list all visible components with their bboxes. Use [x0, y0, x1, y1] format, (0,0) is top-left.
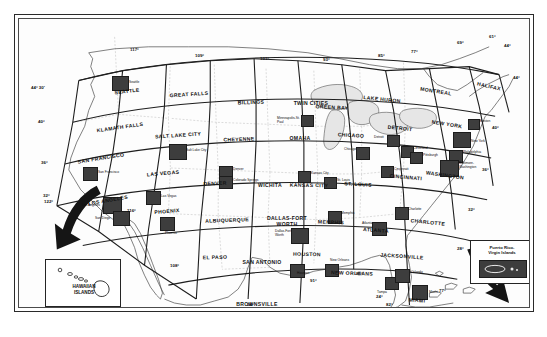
- graticule-tick-bottom-1: 108°: [170, 263, 179, 268]
- hawaii-title-line2: ISLANDS: [74, 290, 94, 295]
- tac-label-denver: Denver: [233, 168, 244, 172]
- graticule-tick-bottom-6: 85°: [356, 271, 363, 276]
- graticule-tick-latitudes-right-0: 44°: [504, 43, 511, 48]
- tac-box-chicago: [356, 147, 370, 160]
- tac-label-salt-lake-city: Salt Lake City: [186, 149, 206, 153]
- tac-label-memphis: Memphis: [341, 212, 354, 216]
- pr-title-line2: Virgin Islands: [488, 250, 515, 255]
- graticule-tick-latitudes-left-1: 40°: [38, 119, 45, 124]
- graticule-tick-latitudes-left-3: 32°: [43, 193, 50, 198]
- graticule-tick-latitudes-right-6: 77°: [439, 288, 446, 293]
- graticule-tick-bottom-7: 24°: [376, 294, 383, 299]
- tac-label-new-orleans: New Orleans: [330, 259, 349, 263]
- tac-label-phoenix: Phoenix: [165, 232, 177, 236]
- puerto-rico-inset-title: Puerto Rico- Virgin Islands: [475, 245, 529, 255]
- chart-inner-border: SeattleMinneapolis-St. PaulSalt Lake Cit…: [18, 18, 530, 308]
- tac-label-dallas-fort-worth: Dallas-Fort Worth: [275, 230, 299, 238]
- graticule-tick-longitudes-top-6: 69°: [457, 40, 464, 45]
- tac-label-las-vegas: Las Vegas: [161, 195, 176, 199]
- graticule-tick-longitudes-top-3: 93°: [323, 57, 330, 62]
- sectional-chart-brownsville: BROWNSVILLE: [217, 301, 297, 307]
- tac-box-salt-lake-city: [169, 144, 187, 160]
- tac-label-seattle: Seattle: [129, 81, 139, 85]
- puerto-rico-inset: Puerto Rico- Virgin Islands: [470, 240, 530, 284]
- screenshot-root: SeattleMinneapolis-St. PaulSalt Lake Cit…: [0, 0, 547, 337]
- graticule-tick-longitudes-top-0: 117°: [130, 47, 139, 52]
- graticule-tick-latitudes-right-1: 44°: [513, 75, 520, 80]
- hawaii-arrow: [55, 186, 101, 250]
- hawaii-inset-title: HAWAIIAN ISLANDS: [62, 284, 106, 295]
- chart-frame: SeattleMinneapolis-St. PaulSalt Lake Cit…: [14, 14, 534, 312]
- graticule-tick-longitudes-top-2: 101°: [260, 56, 269, 61]
- graticule-tick-bottom-2: 103°: [201, 307, 210, 308]
- tac-label-cleveland: Cleveland: [413, 147, 428, 151]
- graticule-tick-bottom-0: 116°: [127, 208, 136, 213]
- tac-box-minneapolis-st-paul: [301, 115, 314, 127]
- puerto-rico-tac-box: [479, 260, 527, 278]
- tac-box-new-york: [453, 132, 471, 148]
- graticule-tick-latitudes-left-0: 44° 30': [31, 85, 45, 90]
- graticule-tick-longitudes-top-4: 85°: [378, 53, 385, 58]
- graticule-tick-latitudes-left-4: 122°: [44, 199, 53, 204]
- sectional-chart-san-antonio: SAN ANTONIO: [222, 259, 302, 265]
- tac-box-phoenix: [160, 217, 175, 231]
- hawaii-title-line1: HAWAIIAN: [73, 284, 96, 289]
- tac-label-kansas-city: Kansas City: [311, 172, 335, 176]
- tac-box-san-francisco: [83, 167, 98, 181]
- tac-label-new-york: New York: [471, 140, 485, 144]
- tac-label-pittsburgh: Pittsburgh: [423, 154, 438, 158]
- tac-label-orlando: Orlando: [411, 271, 423, 275]
- tac-box-pittsburgh: [410, 152, 423, 164]
- puerto-rico-island-shapes: [480, 261, 526, 277]
- graticule-tick-latitudes-right-5: 28°: [457, 246, 464, 251]
- graticule-tick-bottom-4: 24°: [247, 302, 254, 307]
- hawaii-islands-shapes: [46, 260, 120, 306]
- tac-label-charlotte: Charlotte: [408, 208, 421, 212]
- graticule-tick-latitudes-right-2: 40°: [492, 125, 499, 130]
- graticule-tick-latitudes-right-4: 32°: [468, 207, 475, 212]
- graticule-tick-latitudes-left-2: 36°: [41, 160, 48, 165]
- tac-label-chicago: Chicago: [344, 148, 356, 152]
- graticule-tick-longitudes-top-5: 77°: [411, 49, 418, 54]
- tac-label-boston: Boston: [480, 120, 490, 124]
- tac-label-philadelphia: Philadelphia: [463, 151, 481, 155]
- tac-label-san-francisco: San Francisco: [98, 171, 119, 175]
- graticule-tick-longitudes-top-1: 109°: [195, 53, 204, 58]
- tac-label-minneapolis-st-paul: Minneapolis-St. Paul: [277, 117, 301, 125]
- hawaiian-islands-inset: HAWAIIAN ISLANDS: [45, 259, 121, 307]
- graticule-tick-longitudes-top-7: 61°: [489, 34, 496, 39]
- tac-box-orlando: [395, 269, 410, 283]
- tac-label-houston: Houston: [297, 272, 309, 276]
- tac-label-baltimore-washington: Baltimore-Washington: [459, 162, 483, 170]
- graticule-tick-latitudes-right-3: 36°: [482, 167, 489, 172]
- tac-label-san-diego: San Diego: [95, 217, 110, 221]
- tac-label-miami: Miami: [429, 291, 438, 295]
- graticule-tick-bottom-5: 91°: [310, 278, 317, 283]
- graticule-tick-bottom-8: 82°: [386, 302, 393, 307]
- tac-box-las-vegas: [146, 191, 161, 205]
